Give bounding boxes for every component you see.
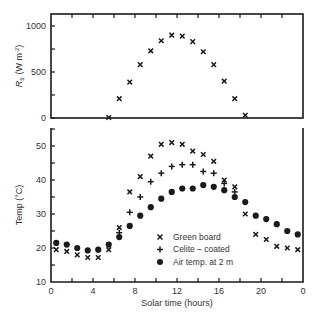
data-point (159, 142, 164, 147)
data-point (158, 196, 164, 202)
data-point (180, 34, 185, 39)
data-point (117, 96, 122, 101)
data-point (75, 253, 80, 258)
data-point (285, 246, 290, 251)
data-point (85, 247, 91, 253)
data-point (53, 240, 59, 246)
data-point (232, 194, 238, 200)
y-tick-label: 500 (31, 67, 46, 77)
y-tick-label: 10 (36, 277, 46, 287)
y-tick-label: 20 (36, 243, 46, 253)
legend-item-air-temp: Air temp. at 2 m (157, 257, 233, 267)
data-point (64, 249, 69, 254)
data-point (190, 39, 195, 44)
top-plot-frame (51, 14, 303, 118)
y-tick-label: 30 (36, 209, 46, 219)
data-point (295, 247, 300, 252)
data-point (106, 242, 112, 248)
data-point (127, 223, 133, 229)
data-point (169, 163, 175, 169)
data-point (106, 247, 111, 252)
data-point (127, 209, 133, 215)
data-point (169, 140, 174, 145)
data-point (117, 225, 122, 230)
legend-item-green-board: Green board (158, 232, 221, 242)
data-point (222, 79, 227, 84)
data-point (295, 231, 301, 237)
plus-marker-icon (157, 247, 163, 253)
data-point (243, 113, 248, 118)
data-point (284, 228, 290, 234)
figure: 05001000 Rs(W m-2) 0481216200 1020304050… (0, 0, 316, 316)
legend-label: Air temp. at 2 m (173, 257, 233, 267)
legend-label: Celite – coated (173, 244, 230, 254)
data-point (221, 187, 227, 193)
data-point (169, 189, 175, 195)
data-point (148, 179, 154, 185)
data-point (148, 49, 153, 54)
data-point (180, 142, 185, 147)
data-point (200, 182, 206, 188)
y-tick-label: 40 (36, 175, 46, 185)
y-tick-label: 0 (41, 113, 46, 123)
solar-radiation-panel: 05001000 Rs(W m-2) (14, 14, 303, 123)
data-point (127, 190, 132, 195)
data-point (190, 149, 195, 154)
data-point (211, 62, 216, 67)
data-point (264, 237, 269, 242)
data-point (232, 96, 237, 101)
data-point (201, 49, 206, 54)
data-point (200, 169, 206, 175)
dot-marker-icon (157, 259, 163, 265)
x-tick-label: 16 (214, 286, 224, 296)
x-tick-label: 0 (48, 286, 53, 296)
data-point (95, 247, 101, 253)
data-point (96, 255, 101, 260)
data-point (242, 199, 248, 205)
data-point (274, 244, 279, 249)
bottom-y-axis-label: Temp (°C) (14, 185, 24, 226)
data-point (211, 170, 217, 176)
data-point (137, 213, 143, 219)
legend-item-celite-coated: Celite – coated (157, 244, 230, 254)
data-point (159, 38, 164, 43)
temperature-panel: 0481216200 1020304050 Temp (°C) Solar ti… (14, 128, 306, 308)
data-point (211, 184, 217, 190)
data-point (74, 245, 80, 251)
data-point (190, 185, 196, 191)
data-point (179, 162, 185, 168)
x-marker-icon (158, 235, 163, 240)
legend: Green board Celite – coated Air temp. at… (157, 232, 233, 267)
y-tick-label: 50 (36, 141, 46, 151)
data-point (190, 162, 196, 168)
x-tick-label: 20 (256, 286, 266, 296)
data-point (138, 62, 143, 67)
top-data-points (106, 33, 247, 120)
data-point (54, 247, 59, 252)
data-point (137, 194, 143, 200)
data-point (138, 174, 143, 179)
legend-label: Green board (173, 232, 221, 242)
x-tick-label: 4 (90, 286, 95, 296)
data-point (253, 213, 259, 219)
data-point (263, 216, 269, 222)
data-point (148, 154, 153, 159)
data-point (201, 152, 206, 157)
x-axis-label: Solar time (hours) (141, 298, 213, 308)
x-tick-label: 0 (300, 286, 305, 296)
data-point (85, 255, 90, 260)
data-point (232, 185, 237, 190)
data-point (274, 221, 280, 227)
data-point (148, 204, 154, 210)
bottom-y-ticks: 1020304050 (36, 129, 55, 287)
data-point (158, 170, 164, 176)
y-tick-label: 1000 (26, 21, 46, 31)
data-point (127, 80, 132, 85)
data-point (211, 159, 216, 164)
data-point (64, 242, 70, 248)
data-point (116, 234, 122, 240)
data-point (253, 232, 258, 237)
bottom-x-ticks: 0481216200 (48, 278, 305, 296)
x-tick-label: 8 (132, 286, 137, 296)
data-point (169, 33, 174, 38)
